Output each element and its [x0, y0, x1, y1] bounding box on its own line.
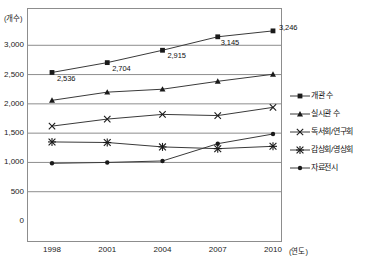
data-point-label: 2,704 [112, 64, 130, 73]
legend-item-5[interactable]: 자료전시 [289, 158, 367, 174]
x-axis-unit-label: (연도) [289, 245, 308, 256]
y-axis-tick-label: 2,000 [0, 99, 24, 108]
x-axis-tick-label: 1998 [32, 245, 72, 254]
y-axis-tick-label: 500 [0, 187, 24, 196]
x-axis-tick-label: 2004 [143, 245, 183, 254]
legend-item-label: 개관 수 [311, 89, 333, 100]
y-axis-tick-label: 3,000 [0, 40, 24, 49]
chart-legend: 개관 수실시관 수독서회/연구회감상회/영상회자료전시 [289, 86, 367, 176]
dot-marker-icon [289, 160, 311, 172]
x-axis-tick-label: 2007 [198, 245, 238, 254]
legend-item-2[interactable]: 실시관 수 [289, 104, 367, 120]
legend-item-3[interactable]: 독서회/연구회 [289, 122, 367, 138]
gridlines [28, 45, 281, 191]
data-point-label: 3,145 [221, 38, 239, 47]
legend-item-label: 감상회/영상회 [311, 143, 353, 154]
data-point-label: 2,915 [168, 51, 186, 60]
line-chart: (개수) 3,0002,5002,0001,5001,0005000 19982… [0, 0, 367, 271]
square-marker-icon [289, 88, 311, 100]
y-axis-tick-label: 2,500 [0, 70, 24, 79]
series-3 [49, 104, 276, 129]
y-axis-tick-label: 1,500 [0, 128, 24, 137]
y-axis-tick-label: 0 [0, 216, 24, 225]
legend-item-label: 실시관 수 [311, 107, 340, 118]
x-marker-icon [289, 124, 311, 136]
y-axis-tick-label: 1,000 [0, 157, 24, 166]
x-axis-tick-label: 2010 [253, 245, 293, 254]
asterisk-marker-icon [289, 142, 311, 154]
x-axis-tick-label: 2001 [87, 245, 127, 254]
data-point-label: 2,536 [57, 74, 75, 83]
data-point-label: 3,246 [279, 23, 297, 32]
legend-item-label: 자료전시 [311, 161, 338, 172]
legend-item-label: 독서회/연구회 [311, 125, 353, 136]
series-layer [48, 28, 277, 165]
series-4 [48, 138, 277, 153]
triangle-marker-icon [289, 106, 311, 118]
legend-item-1[interactable]: 개관 수 [289, 86, 367, 102]
legend-item-4[interactable]: 감상회/영상회 [289, 140, 367, 156]
series-2 [49, 71, 276, 102]
series-1 [50, 28, 276, 74]
